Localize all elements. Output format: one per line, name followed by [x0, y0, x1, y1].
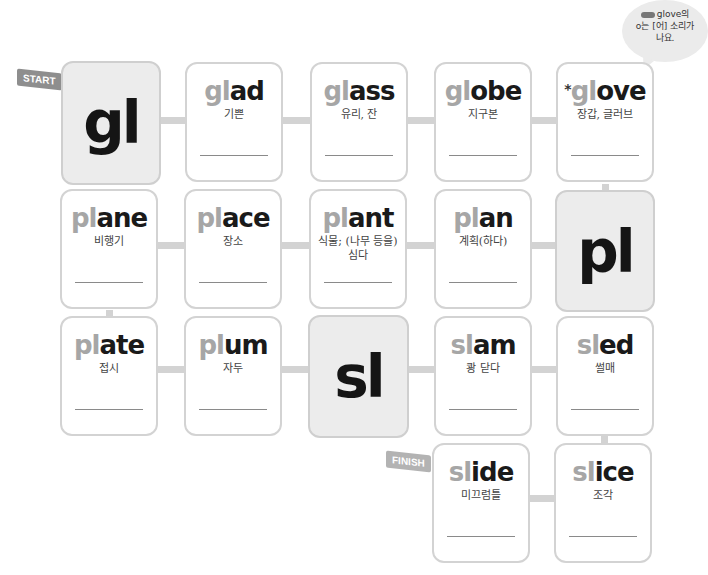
pronunciation-tip-bubble: glove의 o는 [어] 소리가 나요. — [622, 0, 708, 62]
blend-text: sl — [310, 317, 407, 437]
bubble-line-2: o는 [어] 소리가 — [622, 20, 708, 32]
connector — [282, 242, 310, 249]
start-flag: START — [17, 69, 62, 91]
write-line[interactable] — [199, 409, 267, 410]
connector — [157, 242, 185, 249]
word-card-slide: slide 미끄럼틀 — [432, 443, 530, 563]
meaning: 비행기 — [62, 235, 156, 249]
bubble-line-1: glove의 — [657, 9, 690, 19]
finish-flag: FINISH — [386, 451, 431, 473]
meaning: 자두 — [186, 362, 280, 376]
word-card-plant: plant 식물; (나무 등을) 심다 — [309, 189, 407, 309]
word: globe — [436, 76, 530, 106]
blend-text: pl — [557, 192, 653, 312]
write-line[interactable] — [325, 155, 393, 156]
word: plum — [186, 330, 280, 360]
connector — [157, 366, 185, 373]
word-card-glass: glass 유리, 잔 — [310, 62, 408, 182]
connector — [160, 117, 186, 124]
meaning: 계획(하다) — [436, 235, 530, 249]
word-card-plate: plate 접시 — [60, 316, 158, 436]
write-line[interactable] — [75, 282, 143, 283]
write-line[interactable] — [449, 409, 517, 410]
word: plant — [311, 203, 405, 233]
connector — [532, 242, 557, 249]
word: *glove — [558, 76, 652, 106]
blend-card-gl: gl — [61, 61, 161, 185]
word-card-glad: glad 기쁜 — [185, 62, 283, 182]
write-line[interactable] — [75, 409, 143, 410]
word: glass — [312, 76, 406, 106]
meaning: 장소 — [186, 235, 280, 249]
word-card-plane: plane 비행기 — [60, 189, 158, 309]
word-card-place: place 장소 — [184, 189, 282, 309]
word: glad — [187, 76, 281, 106]
write-line[interactable] — [571, 155, 639, 156]
write-line[interactable] — [199, 282, 267, 283]
word-card-plan: plan 계획(하다) — [434, 189, 532, 309]
bubble-line-3: 나요. — [622, 32, 708, 44]
meaning: 장갑, 글러브 — [558, 108, 652, 122]
write-line[interactable] — [449, 282, 517, 283]
blend-card-sl: sl — [308, 315, 409, 438]
word: plane — [62, 203, 156, 233]
connector — [530, 495, 555, 502]
meaning: 조각 — [556, 489, 650, 503]
blend-text: gl — [63, 63, 159, 183]
blend-card-pl: pl — [555, 190, 655, 312]
meaning: 식물; (나무 등을) 심다 — [311, 235, 405, 263]
lips-icon — [641, 12, 655, 18]
word: slice — [556, 457, 650, 487]
word-card-glove: *glove 장갑, 글러브 — [556, 62, 654, 182]
meaning: 미끄럼틀 — [434, 489, 528, 503]
meaning: 기쁜 — [187, 108, 281, 122]
meaning: 접시 — [62, 362, 156, 376]
word: slam — [436, 330, 530, 360]
write-line[interactable] — [569, 536, 637, 537]
word-card-plum: plum 자두 — [184, 316, 282, 436]
write-line[interactable] — [324, 282, 392, 283]
connector — [407, 242, 435, 249]
connector — [283, 117, 311, 124]
word: place — [186, 203, 280, 233]
connector — [532, 117, 557, 124]
meaning: 지구본 — [436, 108, 530, 122]
meaning: 썰매 — [558, 362, 652, 376]
word-card-slice: slice 조각 — [554, 443, 652, 563]
word-card-globe: globe 지구본 — [434, 62, 532, 182]
connector — [408, 117, 435, 124]
write-line[interactable] — [447, 536, 515, 537]
word: plan — [436, 203, 530, 233]
connector — [282, 366, 310, 373]
word: sled — [558, 330, 652, 360]
meaning: 쾅 닫다 — [436, 362, 530, 376]
word: slide — [434, 457, 528, 487]
connector — [532, 366, 557, 373]
word: plate — [62, 330, 156, 360]
word-card-slam: slam 쾅 닫다 — [434, 316, 532, 436]
word-card-sled: sled 썰매 — [556, 316, 654, 436]
word-board: START FINISH glove의 o는 [어] 소리가 나요. gl gl… — [0, 0, 708, 575]
write-line[interactable] — [449, 155, 517, 156]
write-line[interactable] — [200, 155, 268, 156]
connector — [407, 366, 435, 373]
write-line[interactable] — [571, 409, 639, 410]
meaning: 유리, 잔 — [312, 108, 406, 122]
